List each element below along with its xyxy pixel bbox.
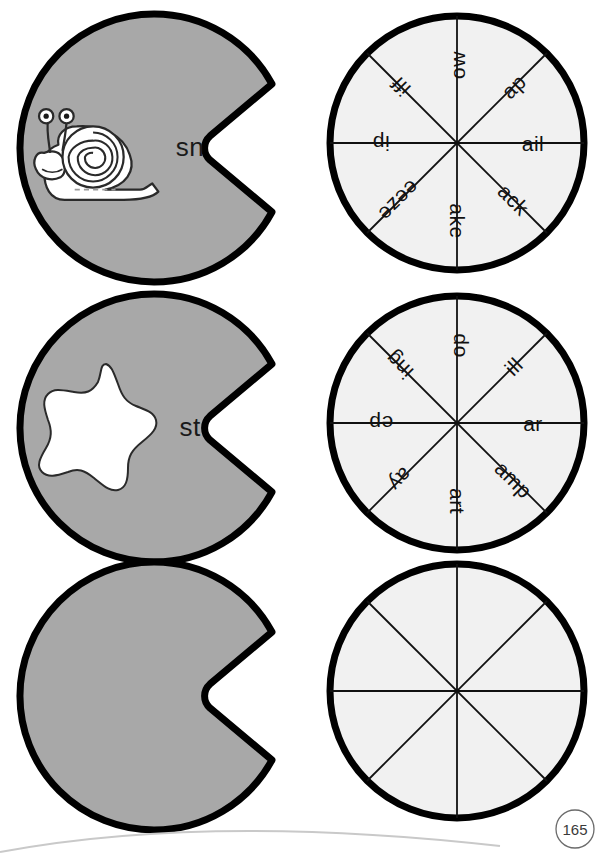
- page-number-text: 165: [562, 821, 587, 838]
- lilypad-label: sn: [176, 132, 204, 162]
- spinner-wheel-card[interactable]: ar amp art ay ep ing op ill: [322, 288, 592, 558]
- wheel-segment-label: ip: [372, 132, 389, 155]
- worksheet-row: [0, 556, 602, 832]
- worksheet-row: st ar amp art ay ep ing o: [0, 288, 602, 564]
- wheel-segment-label: ake: [446, 203, 469, 238]
- spinner-wheel-card[interactable]: ail ack ake eeze ip iff ow ap: [322, 8, 592, 278]
- wheel-segment-label: ep: [369, 412, 393, 435]
- wheel-segment-label: ow: [446, 51, 469, 79]
- spinner-wheel-card[interactable]: [322, 556, 592, 826]
- spinner-wheel-svg: ail ack ake eeze ip iff ow ap: [322, 8, 592, 278]
- wheel-segment-label: ail: [522, 132, 545, 155]
- spinner-wheel-svg: [322, 556, 592, 826]
- lilypad-label: st: [179, 412, 201, 442]
- lilypad-svg: sn: [14, 8, 304, 278]
- wheel-segment-label: op: [446, 333, 469, 357]
- lilypad-svg: [14, 556, 304, 826]
- lilypad-card[interactable]: st: [14, 288, 304, 558]
- lilypad-shape: [20, 562, 272, 830]
- wheel-segment-label: art: [446, 488, 469, 514]
- spinner-wheel-svg: ar amp art ay ep ing op ill: [322, 288, 592, 558]
- lilypad-card[interactable]: [14, 556, 304, 826]
- lilypad-card[interactable]: sn: [14, 8, 304, 278]
- worksheet-page: sn ail ack ake eeze ip iff: [0, 0, 602, 860]
- page-number-badge: 165: [554, 808, 596, 850]
- wheel-segment-label: ar: [523, 412, 543, 435]
- wheel-spokes: [330, 564, 584, 818]
- lilypad-svg: st: [14, 288, 304, 558]
- worksheet-row: sn ail ack ake eeze ip iff: [0, 8, 602, 284]
